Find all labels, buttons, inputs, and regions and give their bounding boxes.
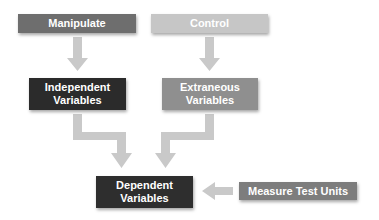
arrow-control-to-extraneous [199,37,220,71]
node-manipulate: Manipulate [18,14,136,33]
node-control: Control [151,14,268,33]
node-label-line2: Variables [120,192,168,205]
node-label-line1: Independent [45,81,110,94]
node-independent-variables: Independent Variables [29,78,126,110]
node-label-line2: Variables [53,94,101,107]
arrow-manipulate-to-independent [67,37,88,71]
node-dependent-variables: Dependent Variables [96,176,193,208]
node-label: Control [190,17,229,30]
node-label: Manipulate [48,17,105,30]
node-extraneous-variables: Extraneous Variables [162,78,258,110]
node-label-line1: Dependent [116,179,173,192]
arrow-extraneous-to-dependent [155,114,214,168]
arrow-independent-to-dependent [73,114,132,168]
node-label-line1: Extraneous [180,81,240,94]
node-measure-test-units: Measure Test Units [239,182,357,200]
arrow-measure-to-dependent [202,182,233,200]
node-label-line2: Variables [186,94,234,107]
node-label: Measure Test Units [248,185,348,198]
